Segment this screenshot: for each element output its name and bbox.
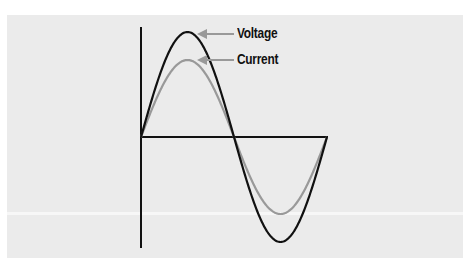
current-arrow <box>197 55 234 65</box>
voltage-arrow <box>197 29 234 39</box>
current-label: Current <box>237 51 278 67</box>
sine-wave-diagram <box>0 0 471 263</box>
voltage-label: Voltage <box>237 25 277 41</box>
